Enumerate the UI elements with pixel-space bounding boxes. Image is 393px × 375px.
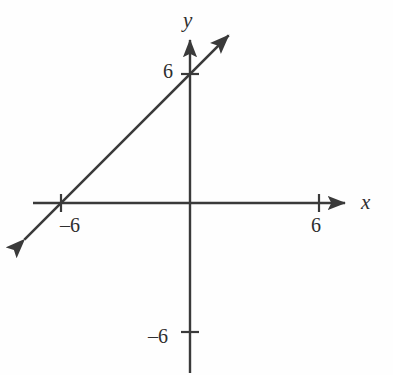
x-axis-tick-label-negative-6: –6: [60, 215, 80, 235]
plotted-line: [24, 35, 228, 239]
x-axis-tick-label-positive-6: 6: [311, 215, 321, 235]
y-axis-tick-label-negative-6: –6: [148, 326, 168, 346]
graph-figure: y x 6 –6 –6 6: [0, 0, 393, 375]
y-axis-label: y: [183, 10, 192, 31]
y-axis-tick-label-positive-6: 6: [163, 61, 173, 81]
coordinate-plane-canvas: [0, 0, 393, 375]
x-axis-label: x: [361, 192, 370, 213]
